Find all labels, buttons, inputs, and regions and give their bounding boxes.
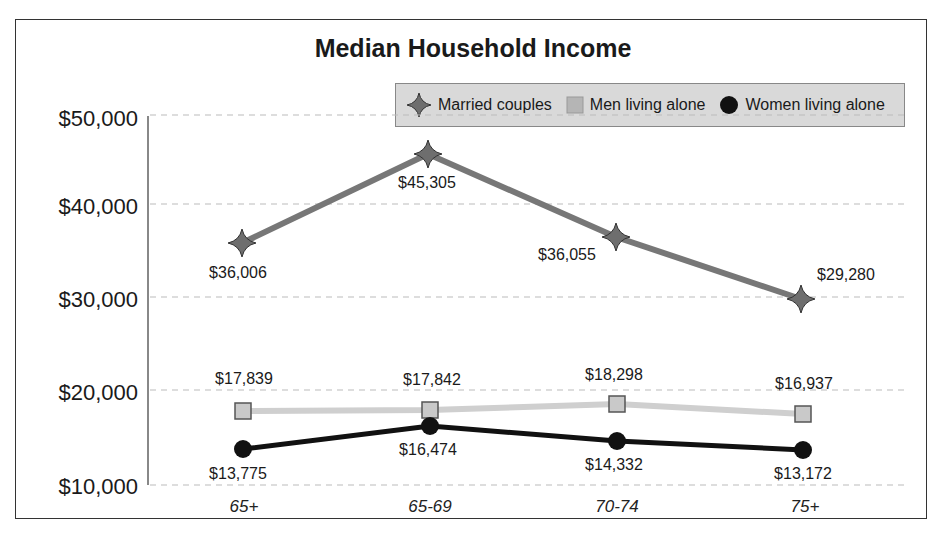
data-label-married: $36,006: [209, 264, 267, 282]
x-tick-label: 65+: [230, 497, 259, 517]
data-label-men: $16,937: [775, 375, 833, 393]
data-label-women: $13,172: [774, 465, 832, 483]
data-label-women: $16,474: [399, 441, 457, 459]
data-label-men: $18,298: [585, 366, 643, 384]
data-label-women: $14,332: [585, 456, 643, 474]
data-label-married: $45,305: [398, 174, 456, 192]
x-tick-label: 65-69: [408, 497, 451, 517]
series-line-married: [242, 154, 801, 299]
data-label-women: $13,775: [209, 465, 267, 483]
data-label-men: $17,839: [215, 370, 273, 388]
series-line-men: [243, 404, 803, 414]
x-tick-label: 70-74: [595, 497, 638, 517]
x-tick-label: 75+: [791, 497, 820, 517]
data-label-men: $17,842: [403, 371, 461, 389]
series-line-women: [243, 426, 803, 450]
data-label-married: $36,055: [538, 246, 596, 264]
data-label-married: $29,280: [817, 266, 875, 284]
